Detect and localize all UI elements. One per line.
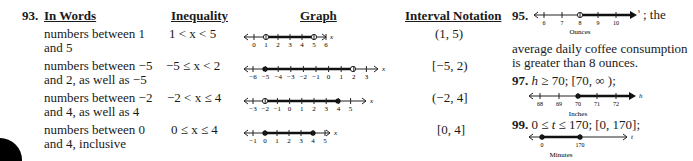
row4-words-line1: numbers between 0	[44, 123, 145, 137]
tick-label: 2	[312, 105, 316, 113]
row4-interval: [0, 4]	[437, 123, 465, 137]
tick-label: −6	[249, 73, 257, 81]
row4-number-line: x −1012345	[240, 126, 350, 148]
tick-label: 6	[324, 41, 328, 49]
tick-label: 70	[575, 101, 581, 107]
svg-text:x: x	[381, 65, 386, 73]
row1-inequality: 1 < x < 5	[169, 27, 216, 41]
tick-label: −1	[312, 73, 320, 81]
row2-inequality: −5 ≤ x < 2	[166, 59, 220, 73]
tick-label: 1	[264, 41, 268, 49]
svg-text:x: x	[333, 129, 338, 137]
tick-label: −5	[262, 73, 270, 81]
page-corner-mark	[0, 138, 22, 161]
problem-97-statement: 97. h ≥ 70; [70, ∞ );	[512, 74, 616, 88]
tick-label: 0	[263, 137, 267, 145]
tick-label: 68	[537, 101, 543, 107]
tick-label: 10	[613, 20, 619, 26]
tick-label: 2	[352, 73, 356, 81]
tick-label: 3	[324, 105, 328, 113]
row3-words-line2: and 4, as well as 4	[44, 105, 139, 119]
tick-label: 7	[561, 20, 564, 26]
row3-inequality: −2 < x ≤ 4	[167, 91, 221, 105]
tick-label: 0	[288, 105, 292, 113]
tick-label: 0	[252, 41, 256, 49]
tick-label: −3	[287, 73, 295, 81]
header-graph: Graph	[300, 8, 337, 24]
problem-95-line3: is greater than 8 ounces.	[512, 56, 638, 70]
tick-label: 69	[556, 101, 562, 107]
problem-97-variable: h	[639, 92, 643, 100]
tick-label: 71	[594, 101, 600, 107]
row2-number-line: x −6−5−4−3−2−10123	[240, 62, 400, 84]
problem-95-number-line: w 678910Ounces	[530, 6, 640, 36]
tick-label: 1	[339, 73, 343, 81]
problem-95-variable: w	[638, 8, 640, 14]
problem-93-number: 93.	[22, 8, 38, 24]
problem-99-number-line: t 0170Minutes	[525, 128, 655, 161]
row1-words-line2: and 5	[44, 41, 73, 55]
problem-95-line2: average daily coffee consumption	[512, 42, 688, 56]
problem-99-variable: t	[631, 133, 634, 141]
tick-label: 170	[576, 142, 585, 148]
row1-words-line1: numbers between 1	[44, 27, 145, 41]
header-interval-notation: Interval Notation	[405, 8, 501, 24]
tick-label: 72	[613, 101, 619, 107]
tick-label: 0	[327, 73, 331, 81]
tick-label: −2	[261, 105, 269, 113]
problem-97-text: ≥ 70; [70, ∞ );	[538, 73, 616, 88]
tick-label: 4	[300, 41, 304, 49]
row2-interval: [−5, 2)	[432, 59, 468, 73]
tick-label: −2	[300, 73, 308, 81]
row3-number-line: x −3−2−1012345	[240, 94, 390, 116]
problem-95-inline-text: ; the	[643, 8, 666, 22]
tick-label: 4	[337, 105, 341, 113]
tick-label: −3	[249, 105, 257, 113]
tick-label: 1	[300, 105, 304, 113]
tick-label: 2	[276, 41, 280, 49]
unit-label: Ounces	[570, 28, 591, 36]
tick-label: 0	[541, 142, 544, 148]
row3-words-line1: numbers between −2	[44, 91, 152, 105]
tick-label: 4	[311, 137, 315, 145]
row2-words-line2: and 2, as well as −5	[44, 73, 147, 87]
tick-label: 6	[543, 20, 546, 26]
problem-97-number-line: h 6869707172Inches	[525, 88, 655, 120]
tick-label: −1	[249, 137, 257, 145]
row1-interval: (1, 5)	[435, 27, 463, 41]
svg-text:x: x	[369, 97, 374, 105]
header-in-words: In Words	[44, 8, 96, 24]
tick-label: 8	[579, 20, 582, 26]
tick-label: 3	[288, 41, 292, 49]
header-inequality: Inequality	[171, 8, 228, 24]
tick-label: 2	[287, 137, 291, 145]
row2-words-line1: numbers between −5	[44, 59, 152, 73]
svg-text:x: x	[329, 33, 334, 41]
tick-label: 1	[275, 137, 279, 145]
row3-interval: (−2, 4]	[432, 91, 468, 105]
row4-inequality: 0 ≤ x ≤ 4	[171, 123, 218, 137]
tick-label: 5	[323, 137, 327, 145]
problem-95-number: 95.	[512, 8, 528, 24]
tick-label: −1	[274, 105, 282, 113]
tick-label: 5	[312, 41, 316, 49]
tick-label: 5	[349, 105, 353, 113]
tick-label: 9	[597, 20, 600, 26]
problem-97-number: 97.	[512, 73, 528, 88]
tick-label: −4	[274, 73, 282, 81]
tick-label: 3	[299, 137, 303, 145]
tick-label: 3	[365, 73, 369, 81]
row1-number-line: x 0123456	[240, 30, 350, 52]
unit-label: Minutes	[550, 151, 573, 159]
row4-words-line2: and 4, inclusive	[44, 137, 126, 151]
